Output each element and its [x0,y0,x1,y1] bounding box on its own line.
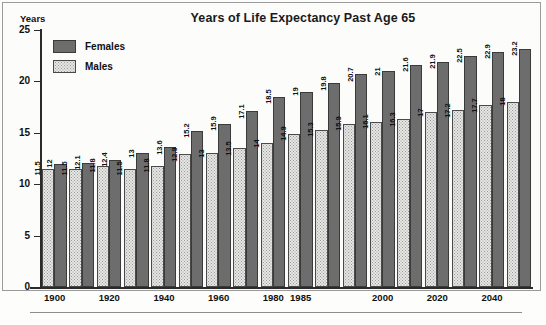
bar-value-label: 15.9 [210,116,218,131]
bar-value-label: 21.9 [429,55,437,70]
bar-male-1995: 15.9 [343,124,355,287]
legend-label-females: Females [85,41,125,52]
bar-value: 15.9 [217,116,225,131]
bar-male-2030: 17.2 [452,110,464,287]
bar-value-label: 15.9 [334,116,342,131]
legend-swatch-females-icon [53,40,76,53]
bar-value: 15.3 [314,122,322,137]
y-tick-0: 0 [34,287,42,288]
bottom-divider [30,312,522,313]
bar-female-1990: 19.8 [328,83,340,287]
bar-male-1990: 15.3 [315,130,327,287]
page-title: Years of Life Expectancy Past Age 65 [0,11,546,25]
x-tick-label-1920: 1920 [99,292,120,303]
bar-value: 14 [259,139,267,147]
y-tick-label: 10 [19,178,30,189]
bar-male-1970: 13.5 [233,148,245,287]
x-tick-label-1980: 1980 [263,292,284,303]
x-tick-label-1900: 1900 [44,292,65,303]
bar-value: 23.2 [518,41,526,56]
bar-value: 13.5 [232,141,240,156]
bar-value-label: 17.7 [471,98,479,113]
y-tick-label: 20 [19,75,30,86]
bar-value-label: 11.8 [88,159,96,173]
bar-value: 13 [205,149,213,157]
bar-value: 13 [135,149,143,157]
bar-female-1930: 13 [136,153,148,287]
bar-value: 22.9 [490,44,498,59]
bar-value: 19 [299,88,307,96]
bar-female-2040: 22.9 [492,52,504,287]
bar-value-label: 15.3 [307,122,315,137]
bar-value-label: 18 [498,98,506,106]
bar-value-label: 17.2 [444,103,452,118]
bar-value-label: 22.9 [483,44,491,59]
bar-female-2050: 23.2 [519,49,531,287]
bar-value: 18 [505,98,513,106]
bar-value: 15.9 [341,116,349,131]
bar-value-label: 12.4 [101,152,109,167]
bar-value-label: 17.1 [237,104,245,119]
bar-male-1960: 13 [206,153,218,287]
bar-male-2050: 18 [507,102,519,287]
bar-value: 17.1 [244,104,252,119]
bar-female-2000: 21 [382,71,394,287]
bar-value-label: 13.6 [155,140,163,155]
bar-female-2020: 21.9 [437,62,449,287]
bar-value: 12.9 [177,147,185,162]
x-tick-label-2040: 2040 [481,292,502,303]
bar-value: 17.2 [451,103,459,118]
bar-value-label: 15.2 [183,123,191,138]
bar-male-2010: 16.3 [397,119,409,287]
bar-female-1940: 13.6 [164,147,176,287]
bar-male-1940: 11.8 [151,166,163,287]
bar-male-1950: 12.9 [179,154,191,287]
bar-value-label: 11.5 [61,162,69,176]
x-tick-label-1985: 1985 [290,292,311,303]
bar-value-label: 13 [128,149,136,157]
bar-value: 20.7 [354,67,362,82]
bar-value-label: 12.1 [73,155,81,170]
bar-female-1970: 17.1 [246,111,258,287]
bar-value-label: 17 [416,108,424,116]
chart-legend: Females Males [53,40,125,80]
y-axis-title: Years [20,13,45,24]
bar-value-label: 18.5 [265,90,273,105]
x-tick-label-1940: 1940 [153,292,174,303]
bar-female-1900: 12 [54,164,66,287]
bar-value: 21 [381,67,389,75]
bar-female-2010: 21.6 [410,65,422,287]
bar-value: 22.5 [463,48,471,63]
bar-value-label: 16.1 [362,114,370,129]
bar-value-label: 16.3 [389,112,397,127]
y-tick-label: 0 [24,281,30,292]
bar-male-2000: 16.1 [370,122,382,288]
legend-item-males: Males [53,60,125,73]
bar-value-label: 12 [46,159,54,167]
bar-value: 17 [423,108,431,116]
bar-value: 15.2 [190,123,198,138]
y-tick-label: 15 [19,127,30,138]
bar-value-label: 11.8 [143,159,151,173]
bar-male-2020: 17 [425,112,437,287]
x-axis-line [30,287,533,289]
x-tick-label-2000: 2000 [372,292,393,303]
bar-value: 21.6 [408,58,416,73]
bar-value-label: 11.5 [116,162,124,176]
bar-value-label: 21 [374,67,382,75]
bar-male-2040: 17.7 [479,105,491,287]
legend-swatch-males-icon [53,60,76,73]
bar-male-1920: 11.8 [97,166,109,287]
bar-value: 17.7 [478,98,486,113]
y-tick-label: 5 [24,230,30,241]
bar-value: 11.8 [150,159,158,173]
x-tick-label-1960: 1960 [208,292,229,303]
bar-value-label: 11.5 [34,162,42,176]
bar-value: 14.9 [287,127,295,142]
bar-value-label: 19.8 [319,76,327,91]
bar-female-1910: 12.1 [82,163,94,287]
bar-value-label: 19 [292,88,300,96]
bar-value: 19.8 [326,76,334,91]
y-tick-label: 25 [19,24,30,35]
bar-value: 16.3 [396,112,404,127]
